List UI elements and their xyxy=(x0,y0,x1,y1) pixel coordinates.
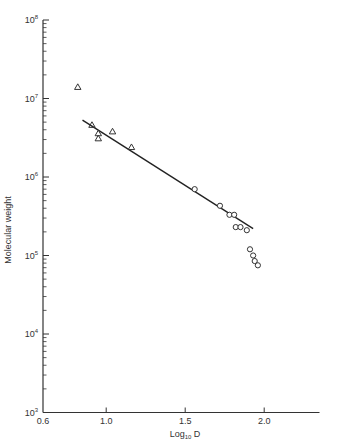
circle-marker xyxy=(217,203,222,208)
triangle-marker xyxy=(109,128,115,134)
y-axis-ticks: 103104105106107108 xyxy=(25,14,49,418)
chart: 103104105106107108 0.61.01.52.0 Molecula… xyxy=(0,0,337,446)
x-tick-label: 1.5 xyxy=(179,416,192,426)
y-tick-label: 108 xyxy=(25,14,39,25)
axes xyxy=(43,20,320,413)
y-axis-title: Molecular weight xyxy=(3,196,13,264)
x-axis-ticks: 0.61.01.52.0 xyxy=(37,408,271,426)
circle-marker xyxy=(255,263,260,268)
y-tick-label: 104 xyxy=(25,328,39,339)
triangle-marker xyxy=(128,144,134,150)
x-tick-label: 1.0 xyxy=(100,416,113,426)
circle-marker xyxy=(244,228,249,233)
circle-marker xyxy=(238,225,243,230)
y-tick-label: 106 xyxy=(25,171,39,182)
x-tick-label: 2.0 xyxy=(258,416,271,426)
data-points xyxy=(75,84,261,268)
y-tick-label: 107 xyxy=(25,93,39,104)
circle-marker xyxy=(192,187,197,192)
y-tick-label: 105 xyxy=(25,250,39,261)
circle-marker xyxy=(251,253,256,258)
circle-marker xyxy=(232,212,237,217)
x-axis-title: Log10 D xyxy=(170,429,201,440)
triangle-marker xyxy=(75,84,81,90)
axis-titles: Molecular weight Log10 D xyxy=(3,196,201,440)
x-tick-label: 0.6 xyxy=(37,416,50,426)
circle-marker xyxy=(247,247,252,252)
